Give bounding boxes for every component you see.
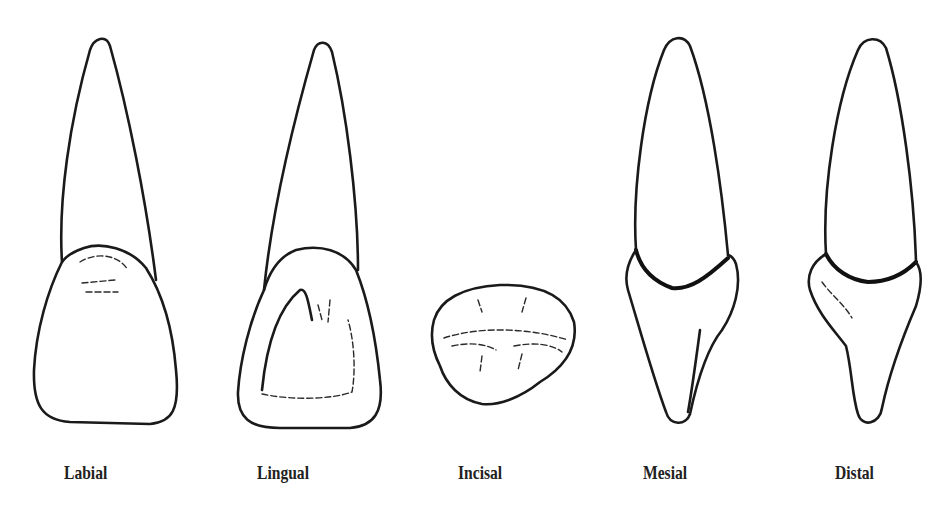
view-label-incisal: Incisal [458, 462, 502, 484]
incisal-view-drawing [432, 285, 575, 404]
mesial-view-drawing [626, 38, 738, 423]
labial-view-drawing [34, 39, 177, 424]
view-label-distal: Distal [835, 462, 874, 484]
tooth-views-diagram [0, 0, 947, 519]
view-label-labial: Labial [64, 462, 107, 484]
lingual-view-drawing [238, 43, 381, 428]
distal-view-drawing [809, 39, 921, 422]
view-label-lingual: Lingual [257, 462, 309, 484]
view-label-mesial: Mesial [643, 462, 687, 484]
